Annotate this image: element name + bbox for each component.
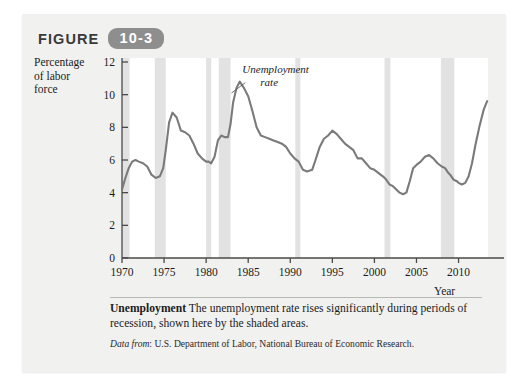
figure-page: FIGURE 10-3 Percentage of labor force Ye…: [0, 0, 521, 389]
recession-band: [385, 58, 391, 258]
x-tick-label: 1990: [279, 266, 302, 278]
recession-band: [206, 58, 211, 258]
caption-lead: Unemployment: [110, 302, 186, 315]
annotation-line-2: rate: [260, 76, 278, 88]
y-tick-label: 10: [104, 89, 116, 101]
x-tick-label: 1980: [195, 266, 218, 278]
x-tick-label: 2000: [363, 266, 386, 278]
recession-band: [122, 58, 130, 258]
y-tick-label: 6: [109, 154, 115, 166]
x-tick-label: 1975: [153, 266, 176, 278]
y-tick-label: 4: [109, 187, 115, 199]
caption-divider: [110, 297, 482, 298]
caption-body: Unemployment The unemployment rate rises…: [110, 302, 482, 331]
source-text: : U.S. Department of Labor, National Bur…: [149, 338, 414, 349]
source-label: Data from: [110, 338, 149, 349]
x-tick-label: 2005: [405, 266, 428, 278]
figure-card: FIGURE 10-3 Percentage of labor force Ye…: [22, 14, 506, 372]
recession-band: [295, 58, 300, 258]
annotation-line-1: Unemployment: [242, 63, 310, 75]
x-tick-label: 2010: [447, 266, 470, 278]
recession-band: [441, 58, 454, 258]
y-tick-label: 12: [104, 56, 116, 68]
y-tick-label: 8: [109, 121, 115, 133]
figure-caption: Unemployment The unemployment rate rises…: [110, 302, 482, 350]
caption-source: Data from: U.S. Department of Labor, Nat…: [110, 338, 482, 350]
x-axis-ticks: 197019751980198519901995200020052010: [111, 258, 471, 278]
x-tick-label: 1970: [111, 266, 134, 278]
y-tick-label: 2: [109, 219, 115, 231]
x-tick-label: 1995: [321, 266, 344, 278]
x-tick-label: 1985: [237, 266, 260, 278]
recession-band: [219, 58, 231, 258]
y-tick-label: 0: [109, 252, 115, 264]
